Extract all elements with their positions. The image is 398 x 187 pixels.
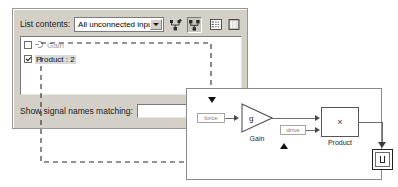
list-item-label: Product : 2 <box>35 55 76 64</box>
signal-arrow-icon <box>378 142 386 148</box>
model-canvas[interactable]: force g Gain drive × Product <box>186 88 382 180</box>
signal-arrow-icon <box>315 127 320 133</box>
collapse-hierarchy-glyph <box>188 19 201 31</box>
list-item-checkbox[interactable] <box>24 41 32 49</box>
force-signal-tag[interactable]: force <box>197 113 225 123</box>
drive-signal-tag[interactable]: drive <box>280 125 306 135</box>
list-item[interactable]: Gain <box>21 39 241 51</box>
list-contents-dropdown-value: All unconnected inputs <box>75 20 159 29</box>
list-item[interactable]: Product : 2 <box>21 53 241 65</box>
list-contents-dropdown[interactable]: All unconnected inputs <box>74 17 164 32</box>
scope-glyph <box>380 156 385 163</box>
scope-block[interactable] <box>372 149 393 170</box>
input-port-icon <box>35 41 44 49</box>
gain-block-symbol: g <box>249 114 253 123</box>
gain-block-label: Gain <box>241 135 273 142</box>
columns-view-icon[interactable] <box>227 17 241 33</box>
list-view-glyph <box>210 19 222 30</box>
scope-icon <box>375 152 390 167</box>
list-contents-label: List contents: <box>20 20 70 29</box>
dialog-toolbar-row: List contents: All unconnected inputs <box>20 16 241 33</box>
expand-hierarchy-icon[interactable] <box>168 17 183 33</box>
signal-list[interactable]: Gain Product : 2 <box>20 36 242 95</box>
signal-wire <box>272 118 317 119</box>
signal-arrow-icon <box>315 115 320 121</box>
list-item-checkbox[interactable] <box>24 55 32 63</box>
signal-filter-label: Show signal names matching: <box>20 107 133 116</box>
columns-view-glyph <box>228 19 240 30</box>
chevron-down-icon[interactable] <box>150 19 162 30</box>
gain-input-pointer-arrow <box>208 97 216 103</box>
signal-arrow-icon <box>234 115 239 121</box>
product-block-label: Product <box>319 139 361 146</box>
expand-hierarchy-glyph <box>169 19 182 31</box>
list-view-icon[interactable] <box>209 17 223 33</box>
list-item-label: Gain <box>47 41 64 50</box>
signal-wire <box>358 122 383 123</box>
product-block[interactable]: × <box>321 107 359 137</box>
gain-block[interactable]: g <box>241 103 273 133</box>
collapse-hierarchy-icon[interactable] <box>187 17 202 33</box>
product-input-pointer-arrow <box>280 143 288 149</box>
